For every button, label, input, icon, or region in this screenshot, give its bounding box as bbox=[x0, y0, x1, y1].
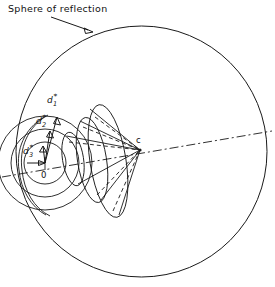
sphere-of-reflection-circle bbox=[16, 26, 267, 277]
caption-leader-arrow bbox=[51, 17, 93, 34]
svg-text:*: * bbox=[43, 113, 47, 122]
ewald-sphere-figure: Sphere of reflection d 1 * d 2 * d 3 * 0… bbox=[0, 0, 275, 287]
origin-label: 0 bbox=[41, 170, 46, 180]
svg-text:2: 2 bbox=[42, 121, 46, 129]
sphere-of-reflection-caption: Sphere of reflection bbox=[8, 3, 107, 14]
vector-label-d2: d 2 * bbox=[36, 113, 47, 129]
center-label: c bbox=[136, 135, 141, 145]
cone-apex-point bbox=[138, 148, 141, 151]
svg-text:*: * bbox=[54, 92, 58, 101]
svg-text:*: * bbox=[30, 143, 34, 152]
laue-cone-1 bbox=[0, 102, 140, 220]
svg-text:3: 3 bbox=[29, 151, 33, 159]
svg-text:1: 1 bbox=[53, 100, 57, 108]
vector-label-d1: d 1 * bbox=[47, 92, 58, 108]
